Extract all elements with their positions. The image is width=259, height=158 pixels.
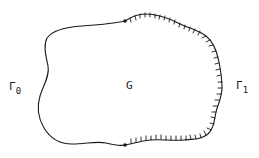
gamma1-subscript: 1 [243, 85, 248, 95]
region-g-label: G [126, 80, 133, 91]
junction-bottom-dot [123, 143, 127, 147]
junction-top-dot [123, 19, 127, 23]
gamma0-subscript: 0 [16, 86, 21, 96]
boundary-gamma0 [38, 21, 125, 145]
gamma1-label: Γ1 [236, 80, 248, 95]
gamma0-symbol: Γ [9, 80, 16, 93]
gamma1-hatch-marks [130, 13, 222, 143]
gamma0-label: Γ0 [9, 81, 21, 96]
gamma1-symbol: Γ [236, 79, 243, 92]
boundary-gamma1 [125, 14, 222, 145]
